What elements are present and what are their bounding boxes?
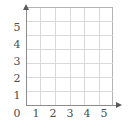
x-tick-label-4: 4 [81,108,93,119]
x-tick-label-3: 3 [64,108,76,119]
gridline-horizontal [26,91,113,92]
origin-label: 0 [11,108,23,119]
x-axis-line [26,105,119,106]
gridline-horizontal [26,49,113,50]
y-tick-label-5: 5 [11,22,23,33]
gridline-horizontal [26,21,113,22]
coordinate-grid-figure: 5 4 3 2 1 0 1 2 3 4 5 [0,0,128,129]
y-tick-label-2: 2 [11,73,23,84]
y-axis-line [26,7,27,106]
x-axis-arrow-icon [116,102,122,108]
gridline-horizontal [26,35,113,36]
x-tick-label-2: 2 [47,108,59,119]
y-axis-arrow-icon [23,4,29,10]
grid-border-top [26,7,113,8]
plot-area [26,7,113,105]
y-tick-label-1: 1 [11,90,23,101]
x-tick-label-5: 5 [98,108,110,119]
gridline-horizontal [26,63,113,64]
x-tick-label-1: 1 [30,108,42,119]
gridline-horizontal [26,77,113,78]
y-tick-label-3: 3 [11,56,23,67]
y-tick-label-4: 4 [11,39,23,50]
